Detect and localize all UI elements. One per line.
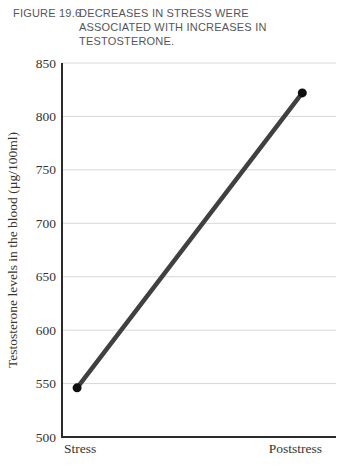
figure-number-label: FIGURE 19.6 (13, 6, 79, 20)
y-tick-label: 650 (36, 269, 57, 284)
caption-line-3: TESTOSTERONE. (79, 35, 174, 47)
data-point (298, 88, 307, 97)
y-tick-label: 750 (36, 162, 57, 177)
chart-svg: 500550600650700750800850StressPoststress… (0, 48, 341, 467)
x-label-poststress: Poststress (269, 441, 322, 456)
y-tick-label: 550 (36, 376, 57, 391)
caption-line-2: ASSOCIATED WITH INCREASES IN (79, 21, 267, 33)
y-axis-title: Testosterone levels in the blood (µg/100… (5, 132, 20, 368)
line-chart: 500550600650700750800850StressPoststress… (0, 48, 341, 467)
caption-line-1: DECREASES IN STRESS WERE (79, 7, 249, 19)
y-tick-label: 850 (36, 56, 57, 71)
y-tick-label: 600 (36, 323, 57, 338)
y-tick-label: 800 (36, 109, 57, 124)
y-tick-label: 700 (36, 216, 57, 231)
data-line (77, 93, 302, 388)
figure-caption-text: DECREASES IN STRESS WERE ASSOCIATED WITH… (79, 6, 311, 48)
data-point (73, 383, 82, 392)
figure-caption: FIGURE 19.6 DECREASES IN STRESS WERE ASS… (0, 0, 341, 48)
x-label-stress: Stress (64, 441, 96, 456)
y-tick-label: 500 (36, 430, 57, 445)
